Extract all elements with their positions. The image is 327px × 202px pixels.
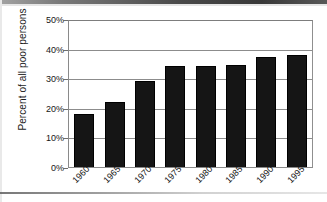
x-tick-cell-1995: 1995: [288, 169, 308, 199]
y-tick-label-20%: 20%: [30, 104, 64, 114]
bar-1985[interactable]: [226, 65, 246, 167]
x-tick-cell-1985: 1985: [226, 169, 246, 199]
x-tick-cell-1960: 1960: [73, 169, 93, 199]
bar-1980[interactable]: [196, 66, 216, 167]
y-tick-label-40%: 40%: [30, 45, 64, 55]
x-tick-cell-1990: 1990: [257, 169, 277, 199]
y-tick-label-0%: 0%: [30, 163, 64, 173]
y-tick-mark-50%: [63, 20, 68, 21]
x-tick-cell-1965: 1965: [104, 169, 124, 199]
y-tick-label-30%: 30%: [30, 74, 64, 84]
y-tick-mark-40%: [63, 50, 68, 51]
bar-series: [69, 21, 312, 167]
x-tick-cell-1970: 1970: [135, 169, 155, 199]
y-tick-mark-0%: [63, 168, 68, 169]
y-tick-mark-30%: [63, 79, 68, 80]
plot-area: [68, 20, 313, 168]
x-tick-cell-1980: 1980: [196, 169, 216, 199]
y-tick-label-10%: 10%: [30, 133, 64, 143]
bar-1960[interactable]: [74, 114, 94, 167]
bar-1990[interactable]: [256, 57, 276, 167]
y-axis-tick-labels: 0%10%20%30%40%50%: [28, 20, 64, 168]
x-tick-cell-1975: 1975: [165, 169, 185, 199]
bar-1995[interactable]: [287, 55, 307, 167]
bar-1975[interactable]: [165, 66, 185, 167]
y-tick-mark-20%: [63, 109, 68, 110]
y-tick-mark-10%: [63, 138, 68, 139]
x-axis-tick-labels: 19601965197019751980198519901995: [68, 169, 313, 199]
y-axis-title: Percent of all poor persons: [17, 0, 28, 140]
bar-chart-figure: Percent of all poor persons 0%10%20%30%4…: [0, 6, 327, 192]
bar-1965[interactable]: [105, 102, 125, 167]
y-tick-label-50%: 50%: [30, 15, 64, 25]
bar-1970[interactable]: [135, 81, 155, 167]
